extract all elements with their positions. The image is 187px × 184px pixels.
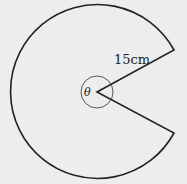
radius-label: 15cm (114, 52, 150, 67)
angle-label: θ (84, 86, 91, 99)
sector-diagram: 15cm θ (0, 0, 187, 184)
diagram-canvas: 15cm θ (0, 0, 187, 184)
sector-outline (11, 4, 174, 178)
